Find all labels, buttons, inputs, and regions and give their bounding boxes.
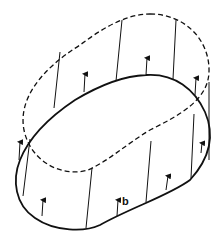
vector-b-label: b xyxy=(122,195,129,207)
arrow-icon xyxy=(166,176,168,190)
diagram-canvas: b xyxy=(0,0,224,242)
dashed-displaced-loop xyxy=(23,14,209,172)
arrow-icon xyxy=(195,78,196,95)
arrow-icon xyxy=(117,200,118,216)
arrow-icon xyxy=(84,74,85,92)
arrow-icon xyxy=(201,143,202,153)
arrow-icon xyxy=(19,142,20,160)
solid-original-loop xyxy=(16,75,210,230)
loop-diagram xyxy=(0,0,224,242)
arrow-icon xyxy=(42,200,43,216)
arrow-icon xyxy=(146,58,147,75)
connecting-lines xyxy=(23,20,209,228)
